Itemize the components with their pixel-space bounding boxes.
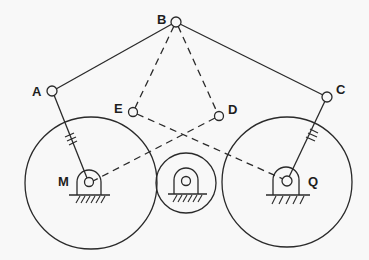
crank-C-Q [289, 101, 325, 177]
joint-B [171, 17, 181, 27]
label-Q: Q [308, 174, 318, 189]
link-A-B [56, 24, 172, 89]
joint-E [129, 108, 138, 117]
label-A: A [32, 84, 42, 99]
label-C: C [336, 82, 346, 97]
label-B: B [157, 12, 166, 27]
joint-C [322, 92, 332, 102]
label-E: E [114, 101, 123, 116]
crank-C-hash-marks [306, 129, 318, 141]
joint-D [215, 112, 224, 121]
dashed-link-D-M [93, 118, 215, 181]
crank-A-M [54, 95, 87, 178]
pivot-Q [266, 167, 310, 204]
diagram-canvas: A B C D E M Q [0, 0, 369, 260]
label-M: M [58, 174, 69, 189]
dashed-link-B-E [135, 26, 174, 108]
joint-A [47, 86, 57, 96]
label-D: D [228, 102, 237, 117]
linkage-diagram: A B C D E M Q [0, 0, 369, 260]
pivot-center [168, 168, 207, 202]
crank-A-hash-marks [65, 133, 77, 145]
link-B-C [180, 24, 323, 95]
